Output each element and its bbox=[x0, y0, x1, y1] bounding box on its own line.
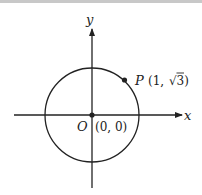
origin-coords: (0, 0) bbox=[95, 120, 127, 134]
x-axis-label: x bbox=[184, 108, 192, 123]
point-p-coords: (1, √3) bbox=[148, 74, 189, 88]
origin-point bbox=[89, 112, 94, 117]
point-p-label: P bbox=[134, 73, 144, 88]
unit-circle-diagram: x y O (0, 0) P (1, √3) bbox=[0, 0, 202, 195]
y-axis-label: y bbox=[85, 12, 94, 27]
origin-label: O bbox=[77, 119, 88, 134]
point-p bbox=[122, 77, 127, 82]
